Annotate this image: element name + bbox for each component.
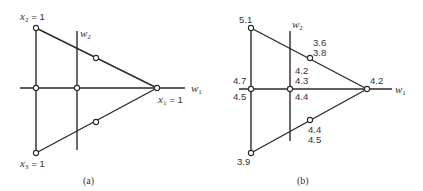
node-right-vertex (154, 85, 159, 90)
value-left-mid-upper: 4.7 (233, 75, 246, 86)
label-w2: w2 (80, 27, 91, 41)
value-center-2: 4.3 (295, 75, 308, 86)
caption-b: (b) (297, 175, 309, 187)
label-w2: w2 (292, 18, 303, 32)
node-left-midpoint (33, 85, 38, 90)
node-upper-midpoint (93, 55, 98, 60)
node-right-vertex (364, 86, 369, 91)
label-x2: x2= 1 (19, 10, 45, 24)
value-left-mid-lower: 4.5 (233, 91, 246, 102)
value-top-vertex: 5.1 (239, 14, 252, 25)
panel-b: 5.1 4.2 3.9 3.6 3.8 4.2 4.3 4.4 4.7 4.5 … (233, 14, 406, 187)
value-lower-mid-2: 4.5 (308, 134, 321, 145)
panel-a: x2= 1 x1= 1 x3= 1 w2 w1 (a) (19, 10, 202, 187)
node-left-midpoint (248, 86, 253, 91)
node-top-vertex (33, 25, 38, 30)
node-upper-midpoint (307, 55, 312, 60)
node-center (287, 86, 292, 91)
label-x1: x1= 1 (157, 93, 183, 107)
figure: x2= 1 x1= 1 x3= 1 w2 w1 (a) 5.1 4.2 3.9 (0, 0, 423, 191)
node-lower-midpoint (307, 117, 312, 122)
value-center-3: 4.4 (295, 91, 308, 102)
caption-a: (a) (83, 175, 94, 187)
value-upper-mid-2: 3.8 (313, 47, 326, 58)
label-w1: w1 (395, 83, 406, 97)
label-w1: w1 (191, 82, 202, 96)
node-top-vertex (248, 25, 253, 30)
value-bottom-vertex: 3.9 (237, 156, 250, 167)
value-right-vertex: 4.2 (370, 75, 383, 86)
node-bottom-vertex (248, 150, 253, 155)
node-lower-midpoint (93, 119, 98, 124)
node-bottom-vertex (33, 150, 38, 155)
node-center (74, 85, 79, 90)
label-x3: x3= 1 (19, 157, 45, 171)
